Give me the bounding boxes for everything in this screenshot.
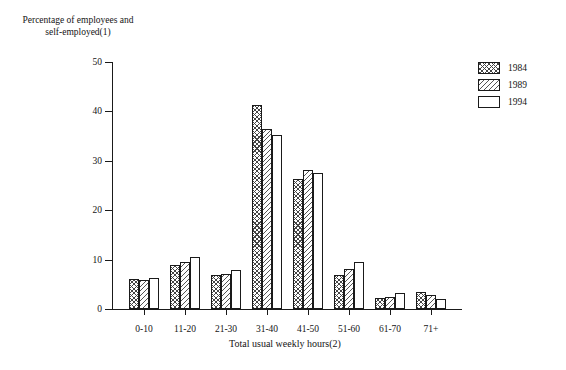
legend-item-1984: 1984 [478,60,562,77]
legend-swatch-icon [478,62,500,74]
x-axis-line [112,309,462,310]
bar-1989 [385,297,395,309]
bar-1994 [190,257,200,310]
bar-1984 [416,292,426,309]
bar-1994 [149,278,159,309]
y-tick-mark [105,161,112,162]
y-tick-label: 30 [78,157,102,167]
bar-1989 [303,170,313,309]
legend-label: 1989 [508,79,527,91]
y-tick-mark [105,111,112,112]
bar-1994 [395,293,405,309]
x-tick-mark [185,310,186,315]
x-tick-mark [226,310,227,315]
bar-1989 [426,295,436,309]
legend-label: 1984 [508,62,527,74]
bar-1989 [262,129,272,309]
bar-1984 [334,275,344,309]
y-tick-mark [105,210,112,211]
x-tick-mark [431,310,432,315]
y-tick-label: 20 [78,206,102,216]
x-tick-mark [267,310,268,315]
y-axis-line [112,62,113,310]
x-tick-mark [390,310,391,315]
bar-1984 [375,298,385,309]
bar-chart: Percentage of employees and self-employe… [0,0,566,370]
bar-1984 [211,275,221,309]
y-tick-label: 10 [78,256,102,266]
x-tick-label: 71+ [406,324,456,334]
bar-1984 [170,265,180,309]
bar-1989 [344,269,354,309]
bar-1994 [354,262,364,309]
bar-1984 [293,179,303,309]
bar-1984 [129,279,139,309]
x-tick-mark [144,310,145,315]
legend-item-1989: 1989 [478,77,562,94]
legend: 1984 1989 1994 [478,60,562,111]
y-tick-mark [105,309,112,310]
x-tick-mark [308,310,309,315]
y-axis-title: Percentage of employees and self-employe… [18,14,138,38]
legend-swatch-icon [478,79,500,91]
bar-1989 [180,262,190,309]
y-tick-mark [105,62,112,63]
bar-1994 [436,299,446,309]
bar-1994 [231,270,241,309]
bar-1984 [252,105,262,309]
x-axis-title: Total usual weekly hours(2) [120,338,450,349]
y-tick-label: 40 [78,107,102,117]
x-tick-mark [349,310,350,315]
legend-item-1994: 1994 [478,94,562,111]
bar-1989 [221,274,231,309]
legend-label: 1994 [508,96,527,108]
y-tick-label: 50 [78,58,102,68]
y-tick-mark [105,260,112,261]
legend-swatch-icon [478,96,500,108]
y-tick-label: 0 [78,305,102,315]
bar-1989 [139,280,149,309]
plot-area: 0 10 20 30 40 50 0-10 11-20 21-30 3 [112,62,462,310]
bar-1994 [313,173,323,309]
bar-1994 [272,135,282,309]
